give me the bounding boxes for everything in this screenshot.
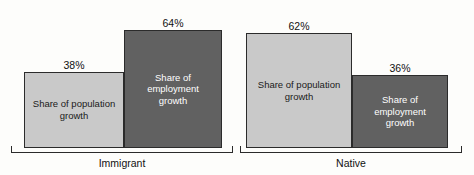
bar-immigrant-population: Share of population growth [24,72,124,148]
plot-area: 38% Share of population growth 64% Share… [0,0,474,175]
bar-native-population: Share of population growth [246,33,352,148]
axis-tick-immigrant-right [232,146,233,153]
bar-chart: 38% Share of population growth 64% Share… [0,0,474,175]
axis-label-immigrant: Immigrant [11,157,233,169]
value-label-immigrant-population: 38% [24,59,124,71]
bar-inline-label-immigrant-population: Share of population growth [30,98,118,121]
axis-label-native: Native [240,157,462,169]
axis-line-native [240,152,462,153]
axis-line-immigrant [11,152,233,153]
value-label-native-employment: 36% [352,62,448,74]
bar-immigrant-employment: Share of employment growth [124,30,222,148]
bar-inline-label-immigrant-employment: Share of employment growth [144,72,202,107]
axis-tick-immigrant-left [11,146,12,153]
value-label-immigrant-employment: 64% [124,17,222,29]
bar-native-employment: Share of employment growth [352,75,448,148]
axis-tick-native-left [240,146,241,153]
value-label-native-population: 62% [246,20,352,32]
bar-inline-label-native-population: Share of population growth [255,79,343,102]
bar-inline-label-native-employment: Share of employment growth [371,94,429,129]
axis-tick-native-right [461,146,462,153]
